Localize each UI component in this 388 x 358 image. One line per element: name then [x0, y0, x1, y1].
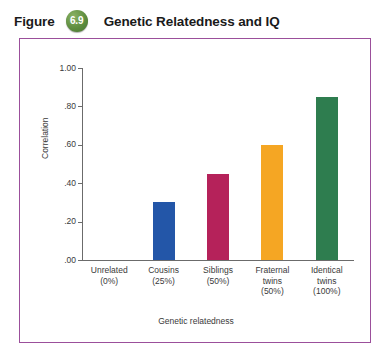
bar-slot: [191, 68, 245, 260]
x-tick-label-line: Identical: [296, 265, 358, 276]
y-tick-label: .40: [46, 178, 76, 188]
x-axis-title: Genetic relatedness: [20, 316, 372, 326]
bar-slot: [245, 68, 299, 260]
y-axis-title: Correlation: [40, 117, 50, 159]
x-tick-label-line: (50%): [187, 276, 249, 287]
x-tick-label-line: Cousins: [133, 265, 195, 276]
bar-slot: [82, 68, 136, 260]
plot-area: Correlation .00.20.40.60.801.00 Unrelate…: [20, 39, 370, 342]
figure-number-badge: 6.9: [66, 10, 88, 32]
x-tick-label-line: (0%): [78, 276, 140, 287]
bar-identical-twins: [316, 97, 338, 260]
x-tick-label: Cousins(25%): [133, 265, 195, 286]
x-tick-label-line: Siblings: [187, 265, 249, 276]
x-tick-label-line: (50%): [241, 286, 303, 297]
chart-panel: Correlation .00.20.40.60.801.00 Unrelate…: [19, 38, 371, 343]
bar-cousins: [153, 202, 175, 260]
y-tick-label: .60: [46, 139, 76, 149]
x-tick-label: Identicaltwins(100%): [296, 265, 358, 297]
x-tick-label: Unrelated(0%): [78, 265, 140, 286]
x-tick-label-line: twins: [241, 276, 303, 287]
figure-title: Genetic Relatedness and IQ: [104, 14, 280, 29]
x-tick-label: Siblings(50%): [187, 265, 249, 286]
x-axis-line: [82, 260, 354, 261]
x-tick-label-line: Unrelated: [78, 265, 140, 276]
bar-slot: [136, 68, 190, 260]
x-tick-label-line: twins: [296, 276, 358, 287]
x-tick-label-line: (100%): [296, 286, 358, 297]
bars-layer: [82, 68, 354, 260]
x-tick-label-line: Fraternal: [241, 265, 303, 276]
figure-container: Figure 6.9 Genetic Relatedness and IQ Co…: [0, 0, 388, 358]
figure-number-text: 6.9: [70, 16, 83, 26]
y-tick-label: 1.00: [46, 63, 76, 73]
x-tick-label-line: (25%): [133, 276, 195, 287]
y-tick-label: .00: [46, 255, 76, 265]
bar-slot: [300, 68, 354, 260]
bar-fraternal-twins: [261, 145, 283, 260]
figure-header: Figure 6.9 Genetic Relatedness and IQ: [0, 8, 388, 34]
bar-siblings: [207, 174, 229, 260]
figure-label-word: Figure: [14, 14, 55, 29]
x-tick-label: Fraternaltwins(50%): [241, 265, 303, 297]
x-axis-tick-labels: Unrelated(0%)Cousins(25%)Siblings(50%)Fr…: [82, 265, 354, 311]
y-tick-label: .80: [46, 101, 76, 111]
y-tick-label: .20: [46, 216, 76, 226]
